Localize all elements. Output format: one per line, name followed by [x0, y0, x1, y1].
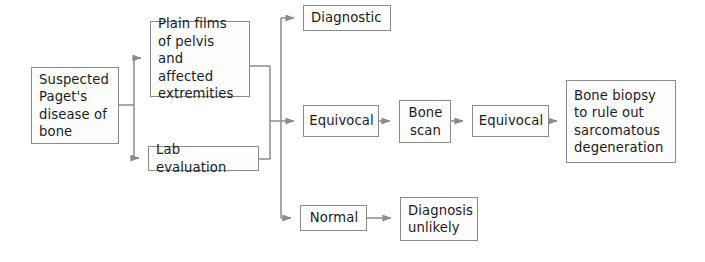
flowchart-diagram: Suspected Paget's disease of bone Plain …	[0, 0, 705, 262]
node-bone-scan: Bone scan	[399, 100, 451, 143]
node-diagnostic: Diagnostic	[303, 5, 391, 31]
node-normal: Normal	[300, 205, 367, 231]
node-lab-evaluation: Lab evaluation	[148, 146, 259, 171]
node-equivocal-second: Equivocal	[472, 105, 549, 137]
node-suspected-paget-disease: Suspected Paget's disease of bone	[31, 67, 119, 144]
node-equivocal-first: Equivocal	[303, 105, 379, 137]
node-bone-biopsy: Bone biopsy to rule out sarcomatous dege…	[566, 80, 676, 163]
node-plain-films: Plain films of pelvis and affected extre…	[150, 21, 250, 97]
node-diagnosis-unlikely: Diagnosis unlikely	[400, 197, 478, 241]
